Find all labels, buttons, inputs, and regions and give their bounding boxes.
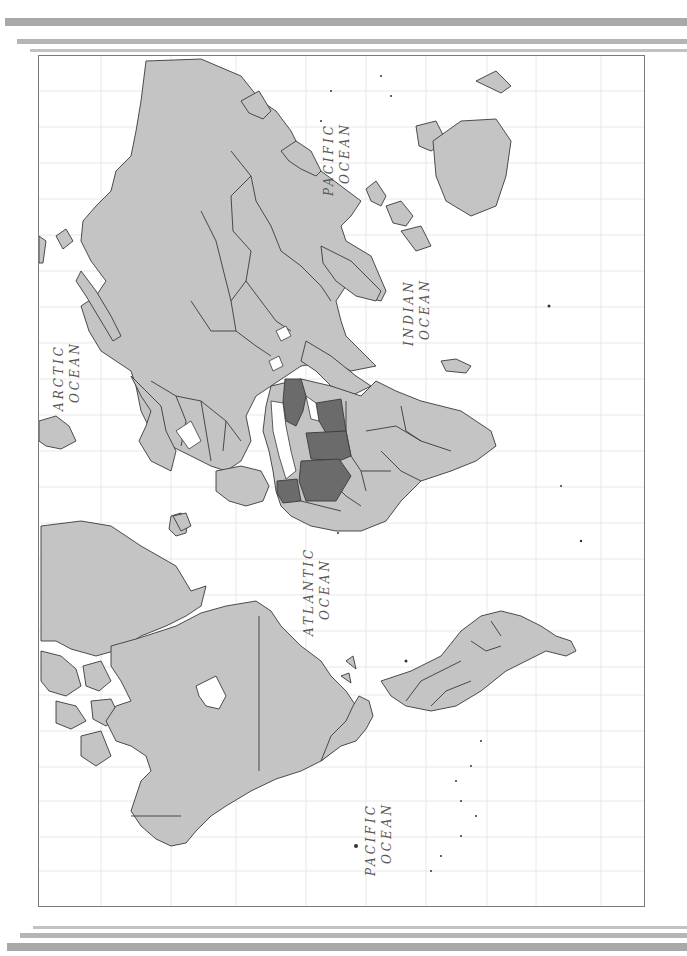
landmass-arctic-archipelago-5 [81,731,111,766]
label-pacific-west-line1: PACIFIC [363,802,379,876]
label-atlantic-line1: ATLANTIC [301,547,317,636]
label-indian-ocean: INDIAN OCEAN [401,278,433,346]
landmass-iberia [216,466,269,506]
label-pacific-ocean-east: PACIFIC OCEAN [321,122,353,196]
label-atlantic-ocean: ATLANTIC OCEAN [301,547,333,636]
world-map: ARCTIC OCEAN PACIFIC OCEAN INDIAN OCEAN … [38,55,645,907]
header-bar-3 [30,49,687,52]
label-pacific-east-line1: PACIFIC [321,122,337,196]
label-pacific-east-line2: OCEAN [337,122,353,196]
footer-bar-1 [33,926,687,929]
landmass-arctic-archipelago-3 [56,701,86,729]
landmass-svalbard [39,416,76,449]
highlighted-country-5 [277,479,301,503]
highlighted-country-3 [306,431,351,461]
landmass-philippines [366,181,386,206]
header-bar-2 [17,39,687,44]
footer-bar-3 [7,943,687,951]
label-indian-line2: OCEAN [417,278,433,346]
header-bar-1 [5,18,687,26]
label-arctic-line1: ARCTIC [51,341,67,411]
label-pacific-ocean-west: PACIFIC OCEAN [363,802,395,876]
label-atlantic-line2: OCEAN [317,547,333,636]
landmass-madagascar [441,359,471,373]
label-pacific-west-line2: OCEAN [379,802,395,876]
landmass-north-america [106,601,361,846]
label-arctic-line2: OCEAN [67,341,83,411]
landmass-borneo [386,201,413,226]
landmass-australia [433,119,511,216]
footer-bar-2 [20,933,687,938]
label-arctic-ocean: ARCTIC OCEAN [51,341,83,411]
landmass-arctic-archipelago-2 [83,661,111,691]
label-indian-line1: INDIAN [401,278,417,346]
landmass-arctic-archipelago-1 [41,651,81,696]
